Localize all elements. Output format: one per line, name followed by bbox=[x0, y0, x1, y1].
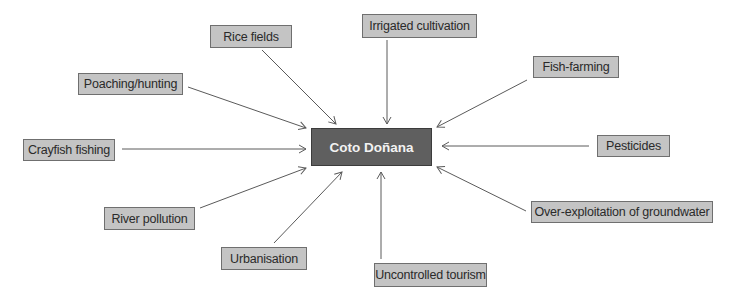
node-label: Uncontrolled tourism bbox=[375, 268, 486, 282]
node-label: Pesticides bbox=[606, 139, 661, 153]
node-label: Urbanisation bbox=[230, 252, 298, 266]
node-label: Rice fields bbox=[223, 30, 278, 44]
node-label: Crayfish fishing bbox=[28, 143, 110, 157]
arrow-fish-farming bbox=[437, 80, 527, 127]
node-poaching-hunting: Poaching/hunting bbox=[78, 73, 183, 95]
center-node-label: Coto Doñana bbox=[330, 140, 414, 155]
node-over-exploitation-groundwater: Over-exploitation of groundwater bbox=[531, 201, 713, 223]
arrow-urbanisation bbox=[274, 172, 342, 243]
arrow-river-pollution bbox=[200, 168, 306, 208]
node-pesticides: Pesticides bbox=[597, 135, 670, 157]
node-river-pollution: River pollution bbox=[104, 207, 195, 230]
center-node-coto-donana: Coto Doñana bbox=[311, 128, 432, 166]
arrow-over-exploitation-groundwater bbox=[437, 167, 526, 211]
node-label: Over-exploitation of groundwater bbox=[535, 205, 710, 219]
node-label: River pollution bbox=[111, 212, 187, 226]
node-label: Poaching/hunting bbox=[84, 77, 177, 91]
arrow-poaching-hunting bbox=[188, 87, 306, 128]
node-irrigated-cultivation: Irrigated cultivation bbox=[362, 14, 477, 38]
threats-diagram: Coto Doñana Rice fields Irrigated cultiv… bbox=[0, 0, 733, 298]
node-label: Fish-farming bbox=[542, 60, 609, 74]
arrow-rice-fields bbox=[262, 50, 336, 124]
node-urbanisation: Urbanisation bbox=[221, 247, 307, 270]
node-uncontrolled-tourism: Uncontrolled tourism bbox=[374, 263, 487, 287]
node-crayfish-fishing: Crayfish fishing bbox=[23, 139, 115, 161]
node-fish-farming: Fish-farming bbox=[533, 56, 619, 78]
node-rice-fields: Rice fields bbox=[210, 25, 292, 48]
node-label: Irrigated cultivation bbox=[369, 19, 470, 33]
